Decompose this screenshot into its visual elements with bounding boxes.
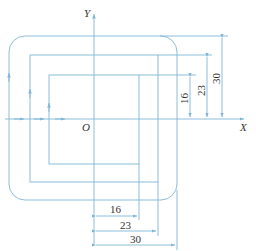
- dim-v-30-label: 30: [210, 73, 222, 85]
- dim-h-30-label: 30: [130, 233, 142, 245]
- dim-h-16-label: 16: [110, 203, 122, 215]
- dim-v-16-label: 16: [178, 93, 190, 105]
- origin-label: O: [82, 121, 90, 133]
- toolpath-diagram: Y X O 16 23 30 16 23 30: [0, 0, 256, 251]
- outer-rectangle: [9, 36, 177, 200]
- y-axis-label: Y: [84, 7, 92, 19]
- dim-v-23-label: 23: [195, 85, 207, 97]
- dim-h-23-label: 23: [120, 219, 132, 231]
- x-axis-label: X: [239, 121, 248, 133]
